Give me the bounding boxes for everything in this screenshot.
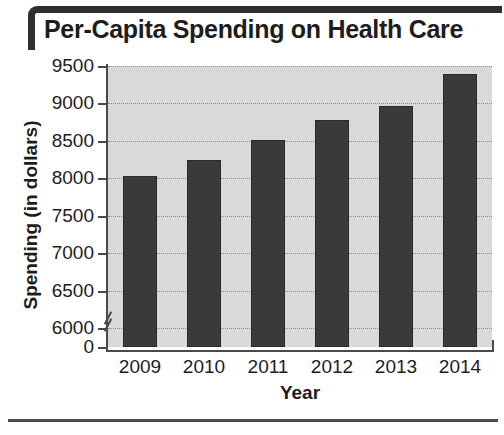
y-axis-tick-label: 7000	[24, 242, 94, 264]
bar-2010	[187, 160, 221, 347]
bottom-rule	[8, 419, 498, 422]
axis-break-icon	[99, 310, 115, 332]
gridline	[108, 66, 492, 67]
y-axis-tick-label: 6500	[24, 280, 94, 302]
gridline	[108, 141, 492, 142]
y-axis-tick-label: 9500	[24, 55, 94, 77]
y-axis-tick	[98, 103, 108, 105]
gridline	[108, 216, 492, 217]
x-axis-right-cap	[492, 340, 494, 352]
x-axis-line	[106, 350, 494, 352]
gridline	[108, 253, 492, 254]
y-axis-tick-label: 9000	[24, 92, 94, 114]
page-title: Per-Capita Spending on Health Care	[44, 12, 504, 46]
y-axis-tick	[98, 216, 108, 218]
x-axis-tick-label-2009: 2009	[108, 356, 172, 378]
bar-chart-figure: Spending (in dollars) 950090008500800075…	[0, 52, 504, 407]
title-band: Per-Capita Spending on Health Care	[0, 0, 504, 52]
x-axis-tick-label-2011: 2011	[236, 356, 300, 378]
y-axis-tick-label: 8500	[24, 130, 94, 152]
gridline	[108, 291, 492, 292]
gridline	[108, 103, 492, 104]
x-axis-tick-label-2012: 2012	[300, 356, 364, 378]
gridline	[108, 178, 492, 179]
y-axis-tick	[98, 347, 108, 349]
x-axis-tick-label-2013: 2013	[364, 356, 428, 378]
y-axis-tick	[98, 66, 108, 68]
y-axis-tick-label: 7500	[24, 205, 94, 227]
y-axis-tick	[98, 291, 108, 293]
bar-2011	[251, 140, 285, 347]
x-axis-tick-label-2014: 2014	[428, 356, 492, 378]
bar-2012	[315, 120, 349, 347]
y-axis-tick	[98, 253, 108, 255]
x-axis-tick-label-2010: 2010	[172, 356, 236, 378]
x-axis-title: Year	[108, 382, 492, 404]
y-axis-tick	[98, 178, 108, 180]
plot-area	[108, 66, 492, 347]
y-axis-tick-label: 8000	[24, 167, 94, 189]
bar-2014	[443, 74, 477, 348]
y-axis-tick-label: 0	[24, 336, 94, 358]
bar-2009	[123, 176, 157, 347]
y-axis-tick	[98, 141, 108, 143]
y-axis-line	[106, 64, 108, 352]
bar-2013	[379, 106, 413, 347]
gridline	[108, 328, 492, 329]
